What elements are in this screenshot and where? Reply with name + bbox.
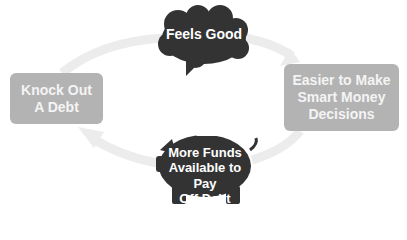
arrow-right-to-pig xyxy=(252,131,300,160)
node-label-line: Off Debt xyxy=(160,191,250,206)
node-label-line: A Debt xyxy=(21,99,92,116)
node-feels-good: Feels Good xyxy=(160,26,248,43)
node-label-line: More Funds xyxy=(160,145,250,160)
node-label-line: Feels Good xyxy=(166,26,242,42)
node-knock-out-a-debt: Knock Out A Debt xyxy=(10,73,103,124)
node-easier-smart-money: Easier to Make Smart Money Decisions xyxy=(284,64,399,131)
node-label-line: Available to Pay xyxy=(160,160,250,191)
node-label-line: Easier to Make xyxy=(292,72,390,89)
arrow-brain-to-right xyxy=(246,38,292,56)
node-label-line: Smart Money xyxy=(292,89,390,106)
arrow-pig-to-knockout xyxy=(92,138,157,163)
node-label-line: Knock Out xyxy=(21,82,92,99)
arrow-knockout-to-brain xyxy=(62,38,162,73)
node-more-funds: More Funds Available to Pay Off Debt xyxy=(160,145,250,206)
node-label-line: Decisions xyxy=(292,106,390,123)
